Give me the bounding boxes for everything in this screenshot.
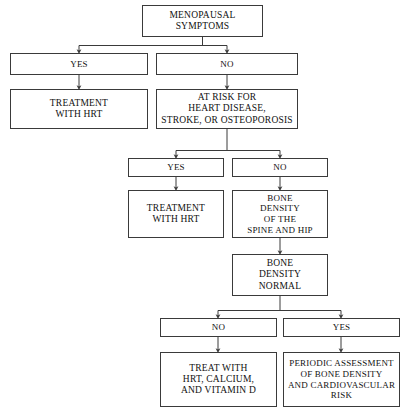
node-no-3-label: NO	[210, 322, 227, 333]
node-no-1-label: NO	[218, 59, 235, 70]
node-yes-3-label: YES	[331, 322, 353, 333]
node-yes-1: YES	[10, 53, 148, 75]
node-bone-density-normal-label: BONE DENSITY NORMAL	[257, 258, 303, 292]
flowchart-diagram: MENOPAUSAL SYMPTOMS YES NO TREATMENT WIT…	[0, 0, 408, 413]
node-no-1: NO	[156, 53, 298, 75]
node-bone-density-normal: BONE DENSITY NORMAL	[232, 254, 328, 296]
node-menopausal-symptoms-label: MENOPAUSAL SYMPTOMS	[167, 10, 237, 32]
node-treatment-with-hrt-1: TREATMENT WITH HRT	[10, 89, 148, 129]
node-treat-with-hrt-calcium-vitamin-d: TREAT WITH HRT, CALCIUM, AND VITAMIN D	[160, 352, 277, 407]
node-no-2-label: NO	[271, 162, 288, 173]
node-yes-3: YES	[283, 318, 400, 337]
node-yes-2-label: YES	[165, 162, 187, 173]
node-at-risk-for-label: AT RISK FOR HEART DISEASE, STROKE, OR OS…	[159, 92, 295, 126]
node-periodic-assessment: PERIODIC ASSESSMENT OF BONE DENSITY AND …	[283, 352, 400, 407]
node-yes-1-label: YES	[68, 59, 90, 70]
node-periodic-assessment-label: PERIODIC ASSESSMENT OF BONE DENSITY AND …	[286, 358, 397, 400]
node-at-risk-for: AT RISK FOR HEART DISEASE, STROKE, OR OS…	[156, 89, 298, 129]
node-no-2: NO	[232, 158, 328, 177]
node-treatment-with-hrt-2: TREATMENT WITH HRT	[128, 190, 224, 238]
node-treatment-with-hrt-2-label: TREATMENT WITH HRT	[145, 203, 207, 225]
node-treatment-with-hrt-1-label: TREATMENT WITH HRT	[48, 98, 110, 120]
node-treat-with-hrt-calcium-vitamin-d-label: TREAT WITH HRT, CALCIUM, AND VITAMIN D	[179, 363, 258, 397]
node-menopausal-symptoms: MENOPAUSAL SYMPTOMS	[142, 5, 263, 37]
node-bone-density-spine-and-hip-label: BONE DENSITY OF THE SPINE AND HIP	[245, 193, 315, 235]
node-bone-density-spine-and-hip: BONE DENSITY OF THE SPINE AND HIP	[232, 190, 328, 238]
node-yes-2: YES	[128, 158, 224, 177]
node-no-3: NO	[160, 318, 277, 337]
